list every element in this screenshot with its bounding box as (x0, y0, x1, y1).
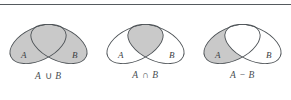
venn-diagram-figure: A B A ∪ B (0, 0, 291, 100)
set-label-b: B (72, 50, 78, 60)
top-divider-rule (0, 4, 291, 5)
caption-intersection-operator: ∩ (142, 70, 149, 80)
venn-panel-difference: A B A − B (194, 8, 291, 98)
caption-intersection: A ∩ B (97, 70, 194, 80)
set-label-a: A (117, 50, 124, 60)
venn-panel-intersection: A B A ∩ B (97, 8, 194, 98)
venn-panel-union: A B A ∪ B (0, 8, 97, 98)
caption-union-right: B (55, 71, 62, 81)
caption-union: A ∪ B (0, 70, 97, 81)
venn-svg-union: A B (0, 8, 97, 70)
caption-union-left: A (35, 71, 42, 81)
set-label-a: A (20, 50, 27, 60)
caption-intersection-left: A (132, 70, 139, 80)
venn-svg-difference: A B (194, 8, 291, 70)
caption-difference: A − B (194, 70, 291, 80)
caption-difference-left: A (230, 70, 237, 80)
set-label-b: B (266, 50, 272, 60)
caption-difference-operator: − (240, 70, 245, 80)
venn-panels-row: A B A ∪ B (0, 8, 291, 98)
set-label-b: B (169, 50, 175, 60)
caption-intersection-right: B (152, 70, 159, 80)
set-label-a: A (214, 50, 221, 60)
venn-svg-intersection: A B (97, 8, 194, 70)
caption-difference-right: B (248, 70, 255, 80)
caption-union-operator: ∪ (45, 71, 52, 81)
